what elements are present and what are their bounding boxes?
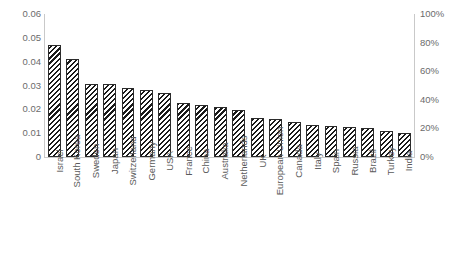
bar-chart: 00.010.020.030.040.050.06 0%20%40%60%80%… — [0, 0, 466, 261]
bar-slot — [45, 14, 63, 157]
y-axis-right-line — [414, 14, 415, 158]
y-tick-right-2: 40% — [420, 95, 439, 105]
bar-slot — [377, 14, 395, 157]
bar-slot — [396, 14, 414, 157]
category-slot: Israel — [45, 159, 63, 259]
y-tick-left-1: 0.01 — [23, 128, 42, 138]
category-slot: Canada — [285, 159, 303, 259]
category-slot: Australia — [211, 159, 229, 259]
category-slot: UK — [248, 159, 266, 259]
category-slot: Germany — [137, 159, 155, 259]
category-slot: Brazil — [359, 159, 377, 259]
y-tick-left-0: 0 — [36, 152, 41, 162]
y-tick-right-3: 60% — [420, 66, 439, 76]
y-tick-right-4: 80% — [420, 38, 439, 48]
category-slot: France — [174, 159, 192, 259]
bar-israel — [48, 45, 61, 157]
category-slot: Turkey — [377, 159, 395, 259]
x-axis-category-labels: IsraelSouth KoreaSwedenJapanSwitzerlandG… — [45, 159, 414, 259]
category-slot: South Korea — [63, 159, 81, 259]
category-slot: Russia — [340, 159, 358, 259]
y-tick-left-5: 0.05 — [23, 33, 42, 43]
y-tick-left-2: 0.02 — [23, 104, 42, 114]
category-slot: India — [396, 159, 414, 259]
category-slot: Sweden — [82, 159, 100, 259]
category-slot: USA — [156, 159, 174, 259]
y-tick-left-3: 0.03 — [23, 81, 42, 91]
y-tick-right-5: 100% — [420, 9, 444, 19]
category-slot: Italy — [303, 159, 321, 259]
y-tick-left-4: 0.04 — [23, 57, 42, 67]
category-slot: Japan — [100, 159, 118, 259]
category-slot: European Union — [266, 159, 284, 259]
category-slot: Switzerland — [119, 159, 137, 259]
category-slot: Spain — [322, 159, 340, 259]
category-slot: China — [193, 159, 211, 259]
category-slot: Netherlands — [230, 159, 248, 259]
y-tick-left-6: 0.06 — [23, 9, 42, 19]
y-tick-right-1: 20% — [420, 123, 439, 133]
category-label-19: India — [405, 151, 466, 172]
